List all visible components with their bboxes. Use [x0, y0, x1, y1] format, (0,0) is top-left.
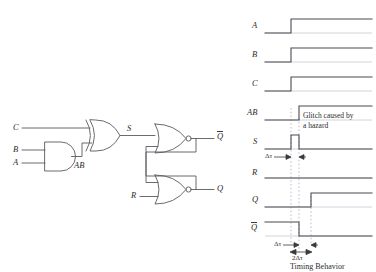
- waveform-a: [265, 19, 372, 33]
- dt-lower-arrow-left: [294, 243, 299, 248]
- timing-label-ab: AB: [247, 108, 257, 117]
- xor-gate-extra-arc: [86, 120, 91, 151]
- dt-lower-arrow-right: [311, 243, 316, 248]
- delta-tau-label-upper: Δτ: [265, 153, 272, 160]
- waveform-b: [265, 48, 372, 62]
- nor-gate-top-bubble: [186, 136, 191, 141]
- figure-canvas: [0, 0, 376, 272]
- circuit-label-q: Q: [217, 184, 223, 193]
- timing-label-s: S: [253, 137, 257, 146]
- circuit-label-qbar: Q: [217, 131, 223, 141]
- circuit-label-c: C: [13, 123, 19, 132]
- delta-tau-label-lower: Δτ: [274, 241, 281, 248]
- circuit-diagram: [22, 120, 214, 204]
- circuit-label-b: B: [13, 145, 18, 154]
- dimension-delta-tau-lower: [283, 243, 318, 248]
- dt-upper-arrow-left: [286, 155, 291, 160]
- dimension-delta-tau-upper: [274, 155, 306, 160]
- waveform-q: [265, 193, 372, 207]
- figure-caption: Timing Behavior: [290, 262, 345, 271]
- waveform-c: [265, 77, 372, 91]
- xor-gate-body: [90, 120, 120, 151]
- timing-label-b: B: [252, 50, 257, 59]
- nor-gate-top-body: [155, 124, 186, 153]
- circuit-label-s: S: [127, 124, 131, 133]
- circuit-label-a: A: [13, 158, 18, 167]
- waveform-s: [265, 135, 372, 149]
- circuit-label-qbar-text: Q: [217, 131, 223, 141]
- nor-gate-bottom-bubble: [186, 187, 191, 192]
- timing-label-a: A: [252, 21, 257, 30]
- circuit-label-r: R: [131, 191, 136, 200]
- timing-baselines: [265, 33, 372, 236]
- timing-label-c: C: [252, 79, 258, 88]
- timing-label-r: R: [252, 168, 257, 177]
- and-gate-body: [45, 142, 76, 171]
- timing-label-q: Q: [252, 195, 258, 204]
- tdt-arrow-right: [306, 249, 312, 254]
- nor-gate-bottom-body: [155, 175, 186, 204]
- wire-cross-q-to-top: [146, 147, 196, 190]
- figure-root: C B A AB S R Q Q A B C AB S R Q Q Glitch…: [0, 0, 376, 272]
- timing-label-qbar: Q: [251, 222, 257, 232]
- glitch-annotation-line2: a hazard: [303, 121, 328, 130]
- two-delta-tau-label: 2Δτ: [292, 255, 303, 262]
- dt-upper-arrow-right: [299, 155, 304, 160]
- waveform-qbar: [265, 222, 372, 236]
- circuit-label-ab: AB: [74, 161, 84, 170]
- glitch-annotation-line1: Glitch caused by: [303, 111, 353, 120]
- timing-label-qbar-text: Q: [251, 222, 257, 232]
